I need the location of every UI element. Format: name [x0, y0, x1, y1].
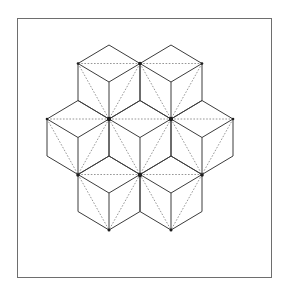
left-face-diagonal: [140, 175, 171, 231]
right-face-diagonal: [109, 175, 140, 231]
left-face-diagonal: [140, 64, 171, 120]
vertex-dot: [232, 118, 235, 121]
cube-edges: [47, 45, 233, 230]
vertex-dot: [200, 173, 204, 177]
cube-inner-edge: [140, 64, 171, 83]
vertex-dot: [201, 62, 204, 65]
cube-inner-edge: [78, 64, 109, 83]
cube-inner-edge: [109, 175, 140, 194]
vertex-dot: [169, 117, 173, 121]
cube-inner-edge: [171, 64, 202, 83]
cube-inner-edge: [47, 119, 78, 138]
left-face-diagonal: [171, 119, 202, 175]
right-face-diagonal: [202, 119, 233, 175]
right-face-diagonal: [171, 175, 202, 231]
vertex-dot: [108, 229, 111, 232]
cube-inner-edge: [78, 175, 109, 194]
cube-inner-edge: [109, 119, 140, 138]
vertex-dot: [107, 117, 111, 121]
cube-inner-edge: [78, 119, 109, 138]
vertex-dot: [77, 62, 80, 65]
cube-inner-edge: [140, 119, 171, 138]
cube-inner-edge: [109, 64, 140, 83]
right-face-diagonal: [109, 64, 140, 120]
vertex-dot: [46, 118, 49, 121]
cube-inner-edge: [171, 175, 202, 194]
vertex-dot: [138, 173, 142, 177]
right-face-diagonal: [140, 119, 171, 175]
left-face-diagonal: [78, 64, 109, 120]
left-face-diagonal: [47, 119, 78, 175]
right-face-diagonal: [171, 64, 202, 120]
cube-tiling-diagram: [0, 0, 287, 296]
cube-inner-edge: [202, 119, 233, 138]
vertex-dot: [138, 62, 142, 66]
cube-inner-edge: [171, 119, 202, 138]
left-face-diagonal: [109, 119, 140, 175]
vertex-dot: [76, 173, 80, 177]
cube-inner-edge: [140, 175, 171, 194]
vertex-dot: [170, 229, 173, 232]
right-face-diagonal: [78, 119, 109, 175]
left-face-diagonal: [78, 175, 109, 231]
